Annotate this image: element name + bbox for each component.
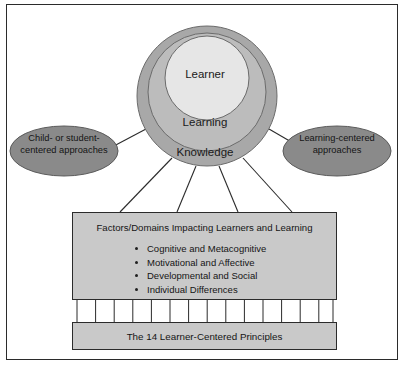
left-approach-line-1: Child- or student-	[12, 133, 116, 145]
connector-line-3	[219, 166, 238, 212]
learning-label: Learning	[0, 116, 410, 129]
left-approach-line-2: centered approaches	[12, 145, 116, 157]
bullet-icon	[135, 261, 138, 264]
right-approach-line-2: approaches	[283, 145, 391, 157]
factors-domains-box: Factors/Domains Impacting Learners and L…	[72, 212, 337, 300]
bullet-icon	[135, 288, 138, 291]
factors-domains-title: Factors/Domains Impacting Learners and L…	[73, 222, 336, 233]
connector-line-1	[120, 158, 172, 212]
list-item-label: Individual Differences	[147, 284, 238, 295]
connector-line-4	[243, 158, 292, 212]
right-approach-label: Learning-centered approaches	[283, 133, 391, 157]
factors-domains-list: Cognitive and Metacognitive Motivational…	[133, 242, 266, 296]
list-item: Individual Differences	[133, 283, 266, 297]
bullet-icon	[135, 274, 138, 277]
figure-canvas: Learner Learning Knowledge Child- or stu…	[0, 0, 410, 369]
list-item-label: Developmental and Social	[147, 270, 257, 281]
left-approach-label: Child- or student- centered approaches	[12, 133, 116, 157]
list-item-label: Motivational and Affective	[147, 257, 255, 268]
learner-centered-principles-box: The 14 Learner-Centered Principles	[72, 322, 337, 350]
bullet-icon	[135, 247, 138, 250]
connector-line-2	[177, 166, 196, 212]
principles-comb-connectors	[77, 300, 333, 322]
list-item: Motivational and Affective	[133, 256, 266, 270]
list-item: Developmental and Social	[133, 269, 266, 283]
learner-label: Learner	[0, 68, 410, 81]
right-approach-line-1: Learning-centered	[283, 133, 391, 145]
connector-line-left-ellipse	[112, 129, 146, 147]
learner-centered-principles-label: The 14 Learner-Centered Principles	[73, 331, 336, 342]
diagram-graphics	[0, 0, 410, 369]
list-item: Cognitive and Metacognitive	[133, 242, 266, 256]
list-item-label: Cognitive and Metacognitive	[147, 243, 266, 254]
